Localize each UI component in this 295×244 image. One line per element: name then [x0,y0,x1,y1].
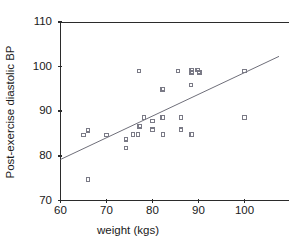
data-point [136,133,139,136]
data-point [198,71,201,74]
y-tick-label: 100 [33,60,52,72]
data-point [132,133,135,136]
x-tick-label: 80 [146,204,159,216]
plot-frame [60,22,289,201]
data-point [151,128,154,131]
data-point [161,88,164,91]
data-point [190,133,193,136]
data-point [151,119,154,122]
data-point [176,69,179,72]
data-point [243,116,246,119]
x-tick-label: 70 [100,204,113,216]
data-point [143,116,146,119]
x-tick-label: 90 [192,204,205,216]
data-point [87,129,90,132]
y-tick-label: 80 [39,149,52,161]
data-point [138,125,141,128]
y-tick-label: 90 [39,104,52,116]
data-point [243,69,246,72]
data-point [179,128,182,131]
y-tick-label: 110 [34,15,52,27]
y-tick-label: 70 [39,194,52,206]
scatter-plot-figure: 708090100110 60708090100 weight (kgs) Po… [0,0,295,244]
data-point [190,71,193,74]
data-point [189,83,192,86]
data-point [179,116,182,119]
data-point [124,146,127,149]
data-point [105,133,108,136]
data-point [161,116,164,119]
y-axis-ticks: 708090100110 [33,15,62,206]
data-point [161,133,164,136]
x-tick-label: 60 [54,204,67,216]
y-axis-title: Post-exercise diastolic BP [4,45,16,178]
data-points [82,68,246,181]
data-point [137,69,140,72]
x-axis-ticks: 60708090100 [54,199,254,217]
data-point [124,138,127,141]
x-tick-label: 100 [235,204,254,216]
x-axis-title: weight (kgs) [96,224,159,236]
chart-canvas: 708090100110 60708090100 weight (kgs) Po… [0,0,295,244]
data-point [82,133,85,136]
data-point [87,178,90,181]
